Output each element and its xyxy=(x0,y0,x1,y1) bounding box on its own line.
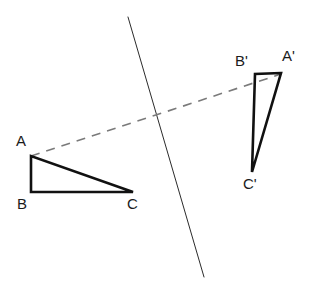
figure-canvas xyxy=(0,0,316,289)
triangle-abc xyxy=(31,156,133,192)
vertex-label-b: B xyxy=(17,196,27,211)
dashed-correspondence-line xyxy=(31,74,281,156)
triangle-a-prime-b-prime-c-prime xyxy=(252,73,281,172)
vertex-label-a: A xyxy=(16,133,26,148)
vertex-label-c-prime: C' xyxy=(243,176,257,191)
vertex-label-a-prime: A' xyxy=(282,48,295,63)
geometry-figure: A B C A' B' C' xyxy=(0,0,316,289)
vertex-label-c: C xyxy=(127,196,138,211)
vertex-label-b-prime: B' xyxy=(235,53,248,68)
mirror-line xyxy=(128,17,204,277)
